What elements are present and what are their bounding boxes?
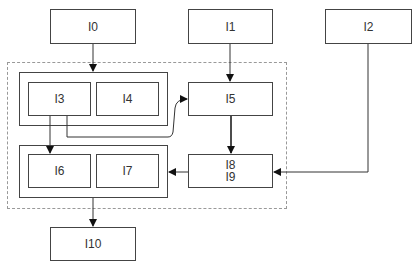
edge-i2-i8 (274, 44, 368, 172)
node-i1-label: I1 (225, 21, 235, 33)
node-i9-label: I9 (225, 171, 235, 183)
node-i10-label: I10 (85, 238, 102, 250)
node-i6-label: I6 (54, 165, 64, 177)
node-i2-label: I2 (363, 21, 373, 33)
node-i1[interactable]: I1 (188, 9, 273, 44)
node-i4[interactable]: I4 (96, 82, 159, 116)
node-i0[interactable]: I0 (50, 9, 136, 44)
node-i5[interactable]: I5 (188, 82, 273, 116)
node-i7[interactable]: I7 (96, 154, 159, 188)
node-i0-label: I0 (88, 21, 98, 33)
node-i10[interactable]: I10 (50, 227, 136, 261)
node-i2[interactable]: I2 (325, 9, 412, 44)
node-i6[interactable]: I6 (28, 154, 91, 188)
node-i3-label: I3 (54, 93, 64, 105)
node-i8-i9[interactable]: I8 I9 (188, 154, 273, 188)
node-i5-label: I5 (225, 93, 235, 105)
node-i3[interactable]: I3 (28, 82, 91, 116)
node-i4-label: I4 (122, 93, 132, 105)
node-i7-label: I7 (122, 165, 132, 177)
